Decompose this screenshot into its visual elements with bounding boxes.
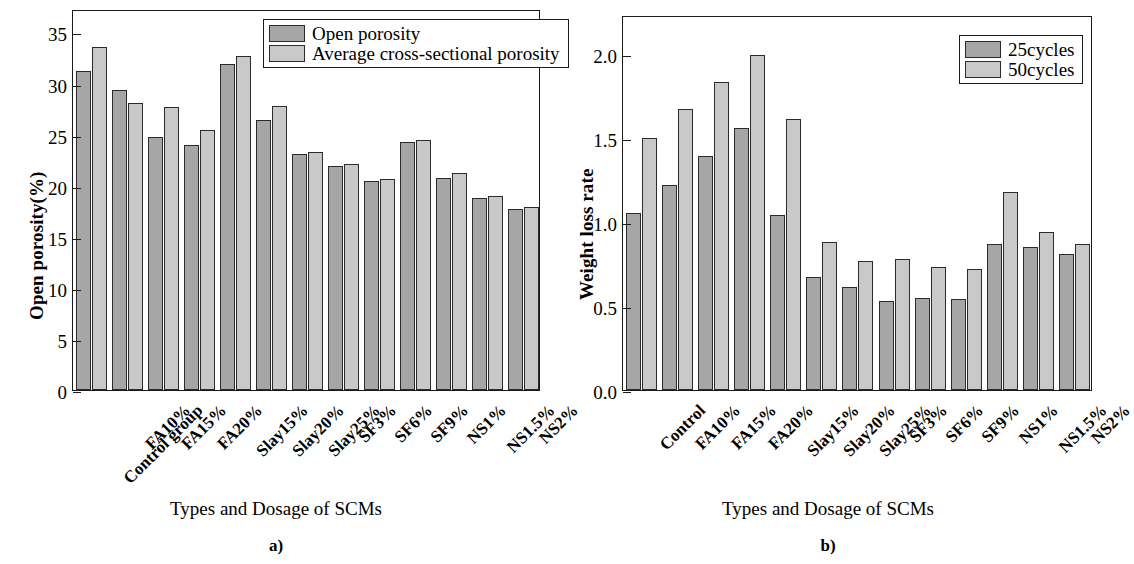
bar <box>328 166 343 390</box>
bar-group <box>623 17 659 390</box>
bar-group <box>109 11 145 390</box>
bar <box>364 181 379 390</box>
legend-label-open-porosity: Open porosity <box>312 24 420 43</box>
legend-swatch-icon-50cycles <box>965 61 1001 78</box>
bar <box>770 215 785 390</box>
bar <box>1003 192 1018 390</box>
y-tick-mark-icon <box>623 56 631 57</box>
bar <box>931 267 946 390</box>
y-tick-label: 0.0 <box>593 383 617 402</box>
panel-caption-a: a) <box>0 536 552 556</box>
x-tick-label: SF6% <box>943 401 987 445</box>
bar-group <box>876 17 912 390</box>
bar <box>472 198 487 390</box>
bar <box>128 103 143 390</box>
bar <box>822 242 837 390</box>
bar <box>308 152 323 390</box>
bar <box>508 209 523 390</box>
y-tick-label: 0 <box>58 383 68 402</box>
bar <box>400 142 415 390</box>
bar <box>112 90 127 390</box>
bar-group <box>217 11 253 390</box>
bar <box>200 130 215 390</box>
legend-swatch-icon-average-cross-sectional-porosity <box>269 45 305 62</box>
bar <box>488 196 503 390</box>
y-tick-label: 15 <box>48 229 67 248</box>
bar <box>626 213 641 390</box>
bar-group <box>731 17 767 390</box>
bar <box>76 71 91 390</box>
legend-item-average-cross-sectional-porosity: Average cross-sectional porosity <box>269 44 560 63</box>
legend-a: Open porosity Average cross-sectional po… <box>263 19 569 68</box>
plot-area-b: 25cycles 50cycles 0.00.51.01.52.0 <box>622 16 1092 391</box>
y-tick-label: 10 <box>48 280 67 299</box>
x-tick-label: SF9% <box>979 401 1023 445</box>
bar <box>895 259 910 390</box>
y-tick-mark-icon <box>73 290 81 291</box>
bar <box>92 47 107 390</box>
bar-group <box>840 17 876 390</box>
y-tick-mark-icon <box>73 137 81 138</box>
bar <box>698 156 713 390</box>
bar <box>452 173 467 390</box>
bar <box>951 299 966 390</box>
x-tick-label: SF6% <box>391 401 435 445</box>
bar <box>915 298 930 390</box>
bar <box>786 119 801 390</box>
y-tick-label: 5 <box>58 331 68 350</box>
x-axis-title-b: Types and Dosage of SCMs <box>552 498 1104 520</box>
bar-group <box>145 11 181 390</box>
bar <box>416 140 431 390</box>
y-tick-mark-icon <box>73 239 81 240</box>
y-axis-title-a: Open porosity(%) <box>26 171 48 320</box>
bar <box>642 138 657 390</box>
bar <box>184 145 199 390</box>
bar <box>148 137 163 390</box>
bar-group <box>912 17 948 390</box>
panel-caption-b: b) <box>552 536 1104 556</box>
legend-item-open-porosity: Open porosity <box>269 24 560 43</box>
bar <box>750 55 765 390</box>
y-tick-mark-icon <box>623 140 631 141</box>
bar <box>164 107 179 390</box>
y-tick-mark-icon <box>73 188 81 189</box>
legend-label-50cycles: 50cycles <box>1008 60 1074 79</box>
y-tick-label: 25 <box>48 127 67 146</box>
bar <box>1059 254 1074 390</box>
chart-panel-a: Open porosity(%) Open porosity Average c… <box>0 0 552 564</box>
bar <box>220 64 235 390</box>
bar <box>344 164 359 390</box>
x-axis-title-a: Types and Dosage of SCMs <box>0 498 552 520</box>
y-tick-label: 30 <box>48 76 67 95</box>
y-tick-mark-icon <box>623 224 631 225</box>
y-tick-label: 0.5 <box>593 298 617 317</box>
x-tick-label: NS1% <box>464 401 509 446</box>
y-tick-label: 1.5 <box>593 130 617 149</box>
bar <box>292 154 307 390</box>
bar <box>987 244 1002 390</box>
chart-panel-b: Weight loss rate 25cycles 50cycles 0.00.… <box>552 0 1104 564</box>
y-tick-mark-icon <box>73 341 81 342</box>
bar <box>272 106 287 390</box>
bar <box>524 207 539 390</box>
y-tick-mark-icon <box>73 392 81 393</box>
bar-group <box>73 11 109 390</box>
bar <box>1039 232 1054 390</box>
bar <box>842 287 857 390</box>
plot-area-a: Open porosity Average cross-sectional po… <box>72 10 540 391</box>
bar <box>806 277 821 390</box>
bar <box>662 185 677 390</box>
y-tick-label: 2.0 <box>593 46 617 65</box>
legend-swatch-icon-25cycles <box>965 41 1001 58</box>
bar <box>879 301 894 390</box>
bar-group <box>804 17 840 390</box>
legend-label-25cycles: 25cycles <box>1008 40 1074 59</box>
bar <box>236 56 251 390</box>
bar <box>380 179 395 390</box>
x-tick-label: NS1% <box>1015 401 1060 446</box>
bar <box>1023 247 1038 390</box>
legend-swatch-icon-open-porosity <box>269 25 305 42</box>
legend-item-50cycles: 50cycles <box>965 60 1074 79</box>
bar <box>858 261 873 390</box>
